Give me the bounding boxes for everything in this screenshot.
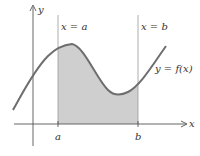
x-equals-a-label: x = a <box>61 21 87 32</box>
x-axis-label: x <box>189 118 195 129</box>
tick-label-a: a <box>55 131 61 142</box>
shaded-area-region <box>58 44 138 124</box>
x-equals-b-label: x = b <box>141 21 168 32</box>
y-axis-label: y <box>37 4 44 15</box>
integral-area-diagram: y x x = a x = b a b y = f(x) <box>0 0 200 156</box>
tick-label-b: b <box>135 131 141 142</box>
curve-label: y = f(x) <box>154 63 193 74</box>
diagram-svg: y x x = a x = b a b y = f(x) <box>0 0 200 156</box>
